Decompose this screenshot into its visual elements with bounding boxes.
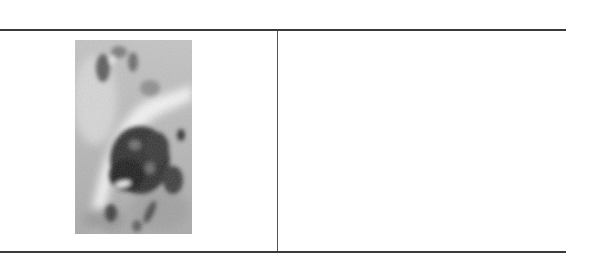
figure-table xyxy=(0,29,566,253)
table-cell-empty xyxy=(278,31,566,251)
table-cell-image xyxy=(0,31,277,251)
micrograph-image xyxy=(75,40,192,234)
